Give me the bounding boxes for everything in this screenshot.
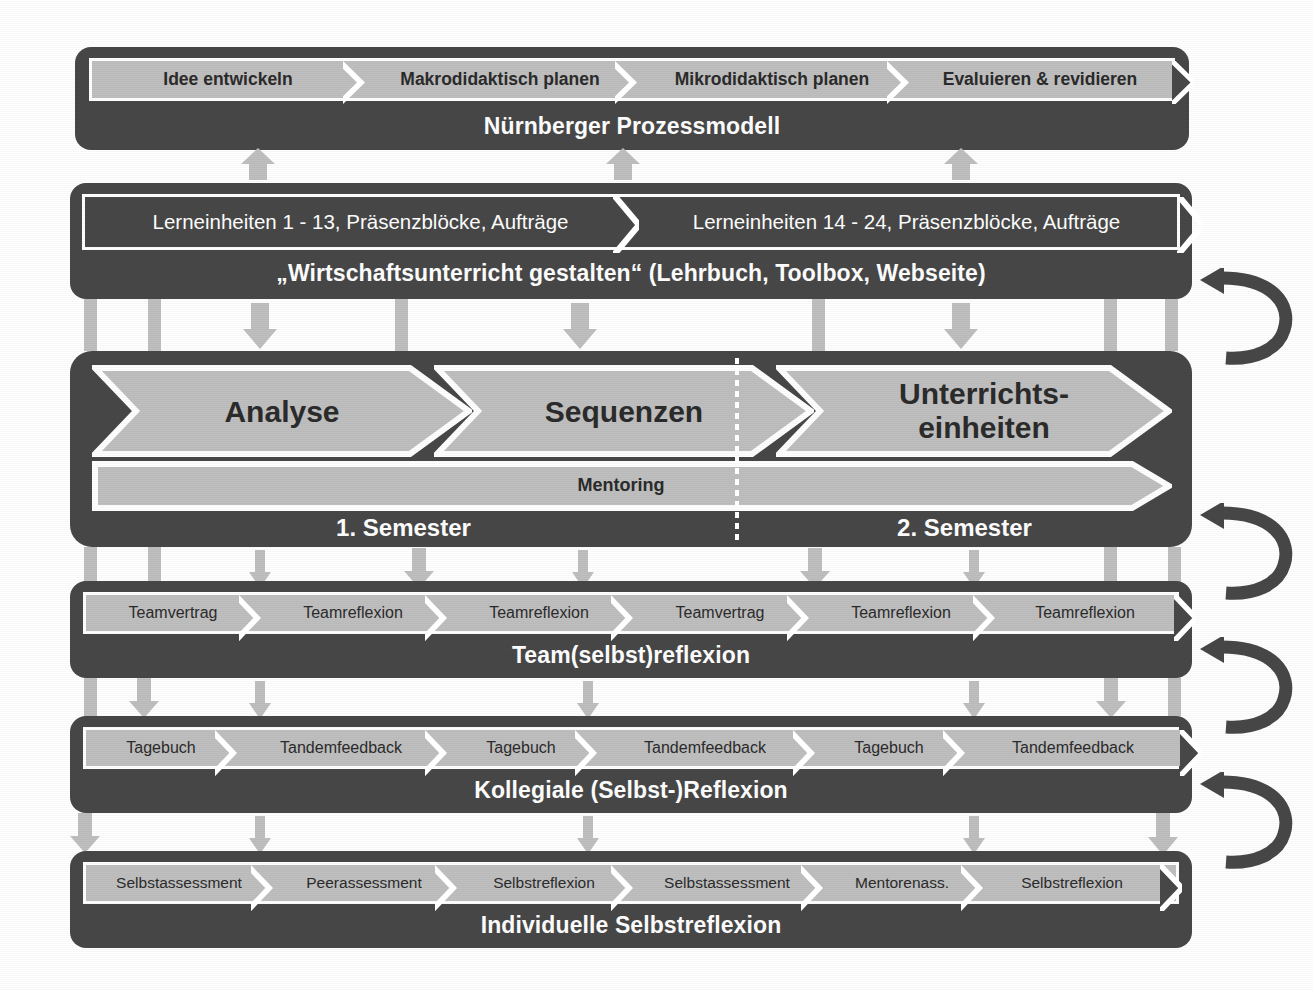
phase-label-line2: einheiten	[918, 411, 1050, 444]
band-kollegiale-selbst-reflexion: Tagebuch Tandemfeedback Tagebuch Tandemf…	[70, 716, 1192, 813]
chevron-step[interactable]: Teamvertrag	[86, 595, 260, 631]
chevron-label: Selbstassessment	[664, 874, 790, 892]
chevron-step[interactable]: Selbstreflexion	[456, 865, 632, 901]
connector-arrow-down	[944, 303, 978, 349]
chevron-step[interactable]: Teamreflexion	[808, 595, 994, 631]
chevron-label: Teamreflexion	[1035, 604, 1135, 622]
chevron-label: Lerneinheiten 14 - 24, Präsenzblöcke, Au…	[693, 210, 1120, 234]
chevron-step[interactable]: Tandemfeedback	[596, 730, 814, 766]
connector-bar	[395, 299, 408, 351]
chevron-divider-icon	[801, 865, 823, 911]
connector-bar	[812, 299, 825, 351]
band-wirtschaftsunterricht-gestalten: Lerneinheiten 1 - 13, Präsenzblöcke, Auf…	[70, 183, 1192, 299]
chevron-step[interactable]: Selbstassessment	[632, 865, 822, 901]
chevron-arrowhead-icon	[1172, 61, 1194, 104]
chevron-step[interactable]: Evaluieren & revidieren	[908, 61, 1172, 98]
chevron-label: Teamreflexion	[303, 604, 403, 622]
feedback-loop-arrow-icon	[1196, 268, 1301, 368]
chevron-label: Makrodidaktisch planen	[400, 69, 599, 90]
chevron-step[interactable]: Teamvertrag	[632, 595, 808, 631]
connector-arrow-down	[963, 681, 985, 719]
chevron-arrowhead-icon	[1160, 865, 1182, 911]
chevron-divider-icon	[251, 865, 273, 911]
chevron-step[interactable]: Teamreflexion	[260, 595, 446, 631]
chevron-label: Teamvertrag	[676, 604, 765, 622]
connector-arrow-down	[1148, 813, 1178, 855]
chevron-arrowhead-icon	[1174, 595, 1196, 641]
chevron-strip-wirtschaftsunterricht: Lerneinheiten 1 - 13, Präsenzblöcke, Auf…	[82, 194, 1180, 250]
connector-arrow-up	[606, 148, 640, 180]
connector-arrow-up	[944, 148, 978, 180]
connector-arrow-down	[249, 816, 271, 854]
phase-label-line1: Unterrichts-	[899, 377, 1069, 410]
phase-label-sequenzen: Sequenzen	[434, 395, 814, 429]
chevron-step[interactable]: Tagebuch	[446, 730, 596, 766]
chevron-label: Tandemfeedback	[1012, 739, 1134, 757]
chevron-label: Tagebuch	[486, 739, 555, 757]
connector-bar	[84, 678, 97, 716]
band-individuelle-selbstreflexion: Selbstassessment Peerassessment Selbstre…	[70, 851, 1192, 948]
phase-label-analyse: Analyse	[92, 395, 472, 429]
chevron-step[interactable]: Lerneinheiten 1 - 13, Präsenzblöcke, Auf…	[85, 197, 636, 247]
chevron-label: Tagebuch	[854, 739, 923, 757]
connector-bar	[84, 299, 97, 351]
chevron-step[interactable]: Teamreflexion	[994, 595, 1176, 631]
connector-bar	[1165, 299, 1178, 351]
chevron-label: Selbstreflexion	[493, 874, 595, 892]
chevron-divider-icon	[793, 730, 815, 776]
chevron-divider-icon	[611, 595, 633, 641]
chevron-divider-icon	[615, 61, 637, 104]
chevron-step[interactable]: Mikrodidaktisch planen	[636, 61, 908, 98]
semester-label-right: 2. Semester	[737, 514, 1192, 542]
chevron-arrowhead-icon	[1177, 197, 1203, 253]
chevron-strip-team: Teamvertrag Teamreflexion Teamreflexion …	[83, 592, 1179, 634]
connector-arrow-down	[243, 303, 277, 349]
feedback-loop-arrow-icon	[1196, 503, 1301, 603]
band-caption: „Wirtschaftsunterricht gestalten“ (Lehrb…	[70, 262, 1192, 285]
chevron-step[interactable]: Selbstassessment	[86, 865, 272, 901]
chevron-label: Selbstassessment	[116, 874, 242, 892]
band-caption: Nürnberger Prozessmodell	[75, 115, 1189, 138]
chevron-step[interactable]: Idee entwickeln	[92, 61, 364, 98]
chevron-step[interactable]: Tandemfeedback	[236, 730, 446, 766]
chevron-label: Peerassessment	[306, 874, 421, 892]
chevron-label: Selbstreflexion	[1021, 874, 1123, 892]
chevron-step[interactable]: Teamreflexion	[446, 595, 632, 631]
connector-arrow-down	[70, 813, 100, 853]
chevron-step[interactable]: Peerassessment	[272, 865, 456, 901]
chevron-step[interactable]: Tagebuch	[814, 730, 964, 766]
chevron-step[interactable]: Tandemfeedback	[964, 730, 1182, 766]
connector-arrow-down	[1096, 678, 1126, 718]
chevron-divider-icon	[887, 61, 909, 104]
feedback-loop-arrow-icon	[1196, 772, 1301, 872]
chevron-label: Idee entwickeln	[163, 69, 292, 90]
chevron-divider-icon	[215, 730, 237, 776]
connector-bar	[1168, 678, 1181, 716]
chevron-divider-icon	[425, 595, 447, 641]
chevron-strip-nuernberger: Idee entwickeln Makrodidaktisch planen M…	[89, 58, 1175, 101]
chevron-step[interactable]: Lerneinheiten 14 - 24, Präsenzblöcke, Au…	[636, 197, 1177, 247]
chevron-label: Tagebuch	[126, 739, 195, 757]
connector-bar	[1104, 299, 1117, 351]
chevron-step[interactable]: Makrodidaktisch planen	[364, 61, 636, 98]
phase-label-unterrichtseinheiten: Unterrichts- einheiten	[796, 377, 1172, 445]
chevron-label: Mentorenass.	[855, 874, 949, 892]
band-caption: Kollegiale (Selbst-)Reflexion	[70, 779, 1192, 802]
chevron-divider-icon	[343, 61, 365, 104]
chevron-divider-icon	[239, 595, 261, 641]
chevron-label: Mikrodidaktisch planen	[675, 69, 869, 90]
connector-arrow-down	[577, 681, 599, 719]
chevron-strip-kollegiale: Tagebuch Tandemfeedback Tagebuch Tandemf…	[83, 727, 1179, 769]
chevron-step[interactable]: Mentorenass.	[822, 865, 982, 901]
diagram-canvas: Idee entwickeln Makrodidaktisch planen M…	[0, 0, 1313, 990]
chevron-label: Lerneinheiten 1 - 13, Präsenzblöcke, Auf…	[153, 210, 569, 234]
chevron-step[interactable]: Tagebuch	[86, 730, 236, 766]
chevron-label: Teamvertrag	[129, 604, 218, 622]
chevron-label: Teamreflexion	[489, 604, 589, 622]
chevron-strip-individuelle: Selbstassessment Peerassessment Selbstre…	[83, 862, 1179, 904]
band-nuernberger-prozessmodell: Idee entwickeln Makrodidaktisch planen M…	[75, 47, 1189, 150]
chevron-divider-icon	[973, 595, 995, 641]
chevron-divider-icon	[425, 730, 447, 776]
band-team-selbst-reflexion: Teamvertrag Teamreflexion Teamreflexion …	[70, 581, 1192, 678]
chevron-step[interactable]: Selbstreflexion	[982, 865, 1162, 901]
